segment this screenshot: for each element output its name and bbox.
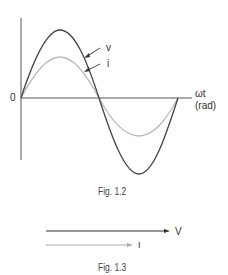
origin-label: 0 [10, 92, 16, 103]
voltage-phasor-arrowhead-icon [164, 229, 170, 233]
current-waveform [21, 57, 178, 136]
figure-caption-1-2: Fig. 1.2 [98, 186, 126, 197]
figure-caption-1-3: Fig. 1.3 [98, 262, 126, 273]
current-label: i [107, 58, 109, 69]
waveform-diagram [0, 0, 228, 275]
voltage-label: v [106, 42, 111, 53]
x-axis-label: ωt [195, 88, 206, 99]
voltage-waveform [21, 30, 178, 174]
current-phasor-label: I [138, 240, 141, 251]
voltage-arrowhead-icon [84, 53, 90, 58]
current-phasor-arrowhead-icon [127, 243, 133, 247]
x-axis-unit-label: (rad) [195, 100, 216, 111]
voltage-phasor-label: V [175, 226, 182, 237]
